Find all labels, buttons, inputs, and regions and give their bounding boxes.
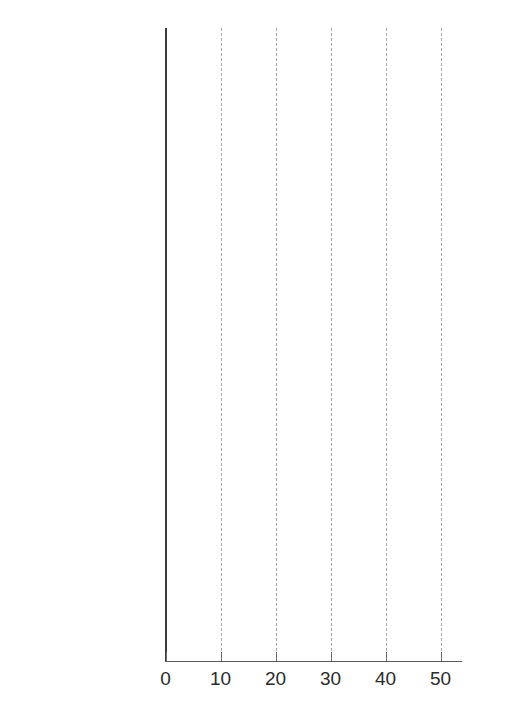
- x-tick-label-30: 30: [320, 668, 341, 690]
- gridline-40: [386, 28, 387, 651]
- x-tick-10: [221, 652, 222, 661]
- x-tick-0: [166, 652, 167, 661]
- x-tick-30: [331, 652, 332, 661]
- x-tick-50: [441, 652, 442, 661]
- x-tick-40: [386, 652, 387, 661]
- plot-area: 01020304050: [0, 0, 515, 709]
- gridline-50: [441, 28, 442, 651]
- x-tick-label-50: 50: [430, 668, 451, 690]
- x-tick-label-20: 20: [265, 668, 286, 690]
- x-tick-label-10: 10: [210, 668, 231, 690]
- x-axis-line: [165, 661, 462, 662]
- x-tick-label-40: 40: [375, 668, 396, 690]
- gridline-20: [276, 28, 277, 651]
- gridline-30: [331, 28, 332, 651]
- x-tick-label-0: 0: [160, 668, 171, 690]
- y-axis-line: [165, 28, 167, 661]
- x-tick-20: [276, 652, 277, 661]
- gridline-10: [221, 28, 222, 651]
- bar-chart: 01020304050: [0, 0, 515, 709]
